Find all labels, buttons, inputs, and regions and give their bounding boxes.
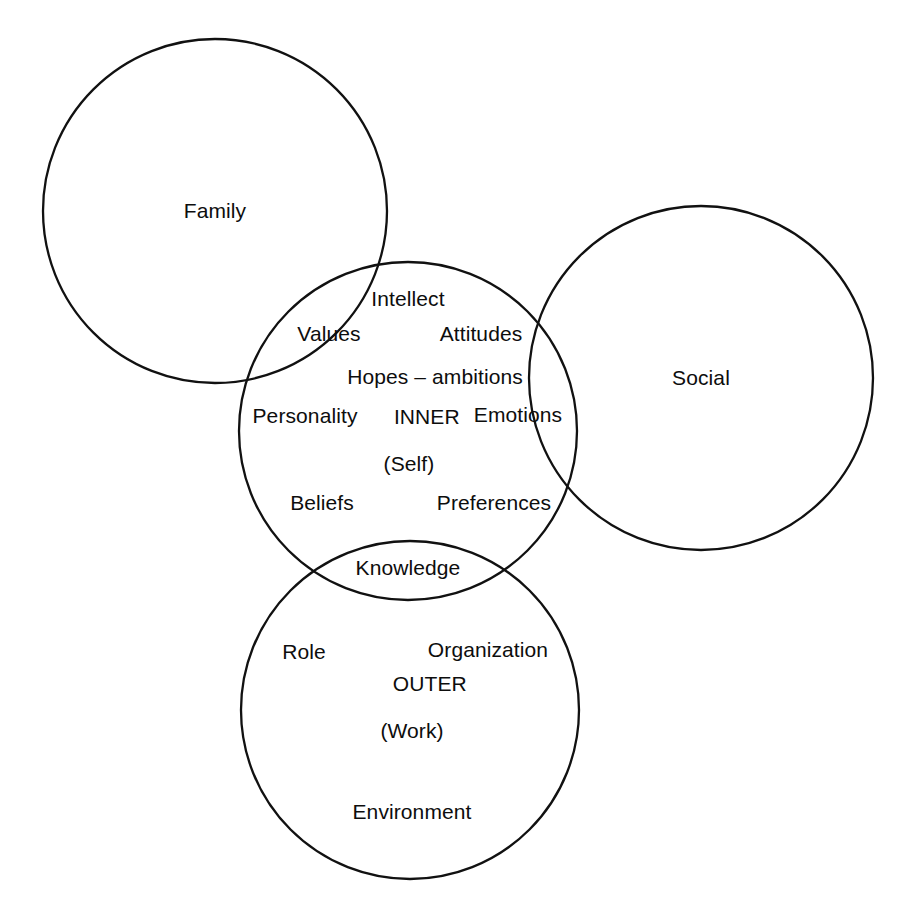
zone-title-outer: OUTER (Work) [357,648,467,789]
zone-title-inner-sub: (Self) [358,452,459,476]
inner-term-values: Values [297,322,360,346]
inner-term-beliefs: Beliefs [290,491,354,515]
zone-title-outer-sub: (Work) [357,719,467,743]
zone-title-outer-main: OUTER [393,672,467,695]
circle-label-family: Family [184,199,246,223]
inner-term-personality: Personality [253,404,358,428]
circle-label-social: Social [672,366,730,390]
inner-term-knowledge: Knowledge [356,556,461,580]
inner-term-intellect: Intellect [371,287,444,311]
outer-term-role: Role [282,640,326,664]
zone-title-inner-main: INNER [394,405,460,428]
zone-title-inner: INNER (Self) [358,381,459,522]
inner-term-attitudes: Attitudes [440,322,523,346]
outer-term-environment: Environment [353,800,472,824]
inner-term-emotions: Emotions [474,403,562,427]
venn-diagram: Family Social Intellect Values Attitudes… [0,0,904,917]
